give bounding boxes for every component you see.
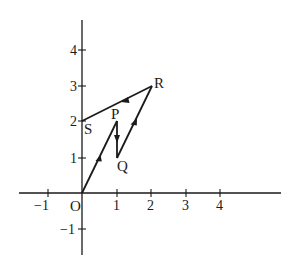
x-tick-label: −1 <box>34 198 49 213</box>
origin-label: O <box>70 198 81 214</box>
x-tick-label: 2 <box>147 198 154 213</box>
x-tick-label: 1 <box>113 198 120 213</box>
y-tick-label: 1 <box>70 151 77 166</box>
arrow-PQ-icon <box>114 135 120 143</box>
y-tick-label: 3 <box>70 79 77 94</box>
y-tick-label: 2 <box>70 114 77 129</box>
point-label-R: R <box>154 75 164 91</box>
arrow-QR-icon <box>131 118 138 126</box>
point-label-P: P <box>111 106 119 122</box>
x-tick-label: 3 <box>182 198 189 213</box>
y-tick-label: −1 <box>60 222 75 237</box>
y-tick-label: 4 <box>70 43 77 58</box>
x-tick-label: 4 <box>216 198 223 213</box>
vector-diagram: −1 1 2 3 4 4 3 2 1 −1 O P Q R S <box>0 0 295 273</box>
point-label-Q: Q <box>117 158 128 174</box>
point-label-S: S <box>84 121 92 137</box>
